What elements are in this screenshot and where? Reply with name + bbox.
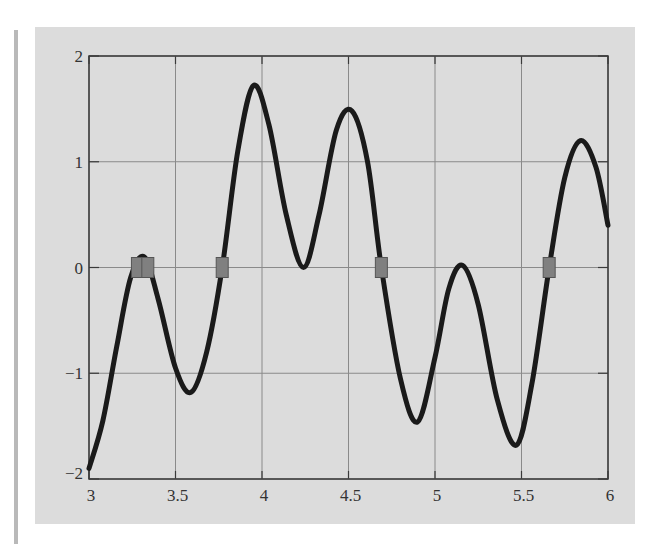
x-tick-label: 4 (260, 486, 269, 505)
square-marker (216, 258, 228, 278)
x-tick-label: 3 (87, 486, 96, 505)
x-tick-label: 3.5 (167, 486, 188, 505)
square-marker (543, 258, 555, 278)
x-tick-label: 6 (606, 486, 615, 505)
line-chart: 33.544.555.56 210−1−2 (0, 0, 661, 544)
square-marker (375, 258, 387, 278)
y-tick-label: 0 (75, 259, 84, 278)
x-tick-label: 5 (433, 486, 442, 505)
gridlines (89, 56, 608, 479)
square-marker (142, 258, 154, 278)
y-axis-tick-labels: 210−1−2 (65, 47, 83, 483)
x-axis-tick-labels: 33.544.555.56 (87, 486, 615, 505)
y-tick-label: 2 (75, 47, 84, 66)
x-tick-label: 4.5 (340, 486, 361, 505)
y-tick-label: −1 (65, 364, 83, 383)
y-tick-label: 1 (75, 153, 84, 172)
x-tick-label: 5.5 (513, 486, 534, 505)
y-tick-label: −2 (65, 464, 83, 483)
